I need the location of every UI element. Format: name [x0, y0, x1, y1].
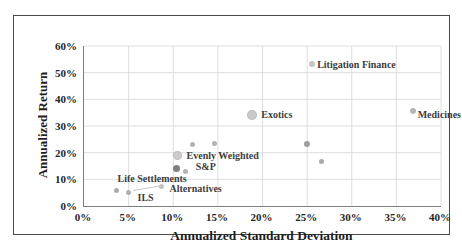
x-tick-5: 5%: [106, 211, 150, 223]
y-tick-20: 20%: [41, 147, 77, 159]
unlabeled-point: [212, 141, 217, 146]
exotics-point: [247, 110, 257, 120]
ils-point: [126, 190, 131, 195]
x-tick-0: 0%: [61, 211, 105, 223]
label-leader-line: [133, 186, 162, 191]
litigation-finance-label: Litigation Finance: [317, 58, 396, 69]
y-tick-50: 50%: [41, 67, 77, 79]
y-tick-10: 10%: [41, 173, 77, 185]
x-tick-30: 30%: [329, 211, 373, 223]
y-tick-40: 40%: [41, 93, 77, 105]
life-settlements-point: [114, 188, 119, 193]
y-tick-30: 30%: [41, 120, 77, 132]
sandp-label: S&P: [196, 161, 216, 172]
x-tick-35: 35%: [373, 211, 417, 223]
x-tick-10: 10%: [150, 211, 194, 223]
exotics-label: Exotics: [261, 108, 292, 119]
ils-label: ILS: [138, 192, 154, 203]
evenly-weighted-label: Evenly Weighted: [187, 149, 259, 160]
y-tick-60: 60%: [41, 40, 77, 52]
x-tick-25: 25%: [284, 211, 328, 223]
plot-area: Life SettlementsILSAlternativesS&PEvenly…: [83, 46, 441, 207]
medicines-label: Medicines: [418, 109, 461, 120]
x-tick-15: 15%: [195, 211, 239, 223]
unlabeled-point: [319, 159, 324, 164]
x-tick-20: 20%: [240, 211, 284, 223]
alternatives-label: Alternatives: [170, 182, 222, 193]
unlabeled-point: [183, 169, 188, 174]
chart-figure: Annualized Return Life SettlementsILSAlt…: [13, 15, 450, 235]
x-axis-title: Annualized Standard Deviation: [83, 228, 440, 244]
unlabeled-point: [304, 141, 310, 147]
x-tick-40: 40%: [418, 211, 462, 223]
